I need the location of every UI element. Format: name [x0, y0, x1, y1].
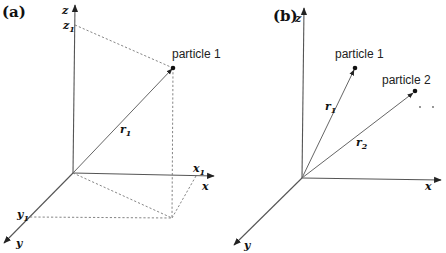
- x-axis-label: x: [201, 180, 209, 193]
- z-axis-label: z: [294, 12, 302, 25]
- z1-label: z1: [62, 19, 75, 34]
- ground-projection-line: [73, 173, 172, 218]
- y-axis: [4, 173, 73, 243]
- x-axis-label: x: [424, 180, 432, 193]
- ellipsis-dot: [432, 106, 434, 108]
- particle-2-label: particle 2: [382, 73, 431, 87]
- z-axis-label: z: [61, 4, 69, 17]
- z-axis: [302, 8, 304, 178]
- panel-a-label: (a): [2, 3, 26, 21]
- particle-position-diagram: (a) z x y z1 x1 y1 r1 particle 1 (b) z x…: [0, 0, 446, 253]
- x-axis: [302, 178, 441, 180]
- r2-label: r2: [356, 136, 368, 151]
- r1-vector: [73, 69, 172, 173]
- panel-b-label: (b): [273, 7, 298, 25]
- particle-1-label: particle 1: [172, 47, 221, 61]
- ellipsis-dot: [419, 106, 421, 108]
- r1-label: r1: [120, 123, 131, 138]
- r1-vector: [302, 70, 354, 178]
- z1-projection-line: [75, 25, 173, 68]
- x1-projection-line: [172, 176, 196, 218]
- y1-label: y1: [16, 208, 29, 223]
- y-axis-label: y: [15, 237, 24, 250]
- x1-label: x1: [192, 162, 205, 177]
- y-axis: [234, 178, 302, 245]
- vertical-projection-line: [172, 68, 173, 218]
- y1-projection-line: [30, 217, 172, 218]
- particle-1-dot: [171, 66, 176, 71]
- particle-2-dot: [413, 89, 418, 94]
- y-axis-label: y: [243, 239, 252, 252]
- particle-1-label: particle 1: [335, 47, 384, 61]
- panel-a: (a) z x y z1 x1 y1 r1 particle 1: [2, 3, 221, 250]
- r1-label: r1: [325, 100, 336, 115]
- particle-1-dot: [353, 66, 358, 71]
- panel-b: (b) z x y r1 r2 particle 1 particle 2: [234, 7, 441, 252]
